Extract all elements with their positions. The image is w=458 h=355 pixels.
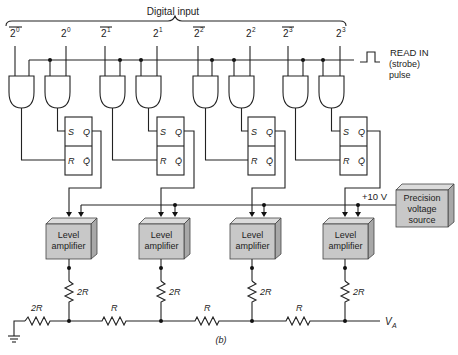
- strobe-bus: READ IN (strobe) pulse: [29, 47, 429, 80]
- and-gate-icon: [229, 76, 254, 108]
- reference-voltage-label: +10 V: [362, 191, 388, 202]
- svg-text:voltage: voltage: [407, 204, 436, 214]
- r-2r-ladder: 2R 2R 2R 2R 2R: [8, 259, 397, 342]
- and-gate-icon: [9, 76, 34, 108]
- svg-text:2R: 2R: [168, 287, 181, 297]
- svg-text:2: 2: [252, 26, 256, 33]
- svg-text:Q: Q: [175, 127, 182, 137]
- svg-text:0: 0: [67, 26, 71, 33]
- input-label-not-2-0: 20: [9, 26, 22, 39]
- svg-text:source: source: [408, 215, 435, 225]
- svg-text:Q: Q: [266, 127, 273, 137]
- input-label-2-0: 20: [61, 26, 71, 39]
- input-label-2-1: 21: [153, 26, 163, 39]
- input-label-not-2-1: 21: [100, 26, 112, 39]
- input-label-not-2-2: 22: [193, 26, 205, 39]
- svg-text:Q̄: Q̄: [175, 156, 182, 166]
- svg-text:3: 3: [342, 26, 346, 33]
- and-gates: [9, 76, 344, 108]
- input-labels: 20 20 21 21 22 22 23 23: [9, 26, 346, 39]
- svg-text:Q̄: Q̄: [358, 156, 365, 166]
- strobe-label-line3: pulse: [389, 70, 411, 80]
- input-wires: [15, 46, 340, 76]
- svg-text:R: R: [68, 156, 75, 166]
- dac-circuit-diagram: Digital input 20 20 21 21 22 22 23 23 RE…: [0, 0, 458, 355]
- level-amplifier-0: Level amplifier: [46, 218, 97, 259]
- strobe-label-line2: (strobe): [389, 59, 420, 69]
- svg-text:amplifier: amplifier: [144, 241, 178, 251]
- svg-text:Level: Level: [242, 230, 264, 240]
- svg-text:A: A: [391, 322, 397, 329]
- svg-text:amplifier: amplifier: [51, 241, 85, 251]
- vertical-resistor-1: 2R: [157, 259, 181, 321]
- vertical-resistor-0: 2R: [65, 259, 89, 321]
- svg-text:S: S: [343, 127, 349, 137]
- input-brace: [6, 16, 346, 26]
- svg-text:Q̄: Q̄: [83, 156, 90, 166]
- svg-text:Q: Q: [358, 127, 365, 137]
- q-to-amp-wires: [66, 131, 380, 217]
- svg-text:2R: 2R: [30, 303, 43, 313]
- ground-icon: [8, 321, 25, 342]
- series-resistor-0: R: [69, 303, 161, 325]
- svg-text:R: R: [296, 303, 303, 313]
- svg-text:2R: 2R: [259, 287, 272, 297]
- output-voltage-label: V A: [385, 316, 397, 329]
- vertical-resistor-2: 2R: [248, 259, 272, 321]
- digital-input-title: Digital input: [147, 6, 199, 17]
- strobe-pulse-icon: [360, 52, 380, 62]
- svg-text:S: S: [160, 127, 166, 137]
- svg-text:R: R: [160, 156, 167, 166]
- svg-text:Level: Level: [151, 230, 173, 240]
- vertical-resistor-3: 2R: [341, 259, 365, 321]
- svg-text:2R: 2R: [76, 287, 89, 297]
- svg-text:R: R: [111, 303, 118, 313]
- circuit-svg: Digital input 20 20 21 21 22 22 23 23 RE…: [0, 0, 458, 355]
- svg-text:amplifier: amplifier: [328, 241, 362, 251]
- flip-flops: SQ RQ̄ SQ RQ̄ SQ RQ̄ SQ RQ̄: [65, 117, 367, 175]
- input-label-2-3: 23: [336, 26, 346, 39]
- series-resistor-1: R: [161, 303, 252, 325]
- svg-text:R: R: [251, 156, 258, 166]
- input-label-2-2: 22: [246, 26, 256, 39]
- and-gate-icon: [136, 76, 161, 108]
- reference-bus: +10 V: [78, 191, 398, 217]
- svg-text:1: 1: [159, 26, 163, 33]
- and-gate-icon: [319, 76, 344, 108]
- svg-text:Q̄: Q̄: [266, 156, 273, 166]
- svg-text:Q: Q: [83, 127, 90, 137]
- level-amplifier-3: Level amplifier: [323, 218, 374, 259]
- sr-flip-flop-3: SQ RQ̄: [340, 117, 367, 175]
- sr-flip-flop-1: SQ RQ̄: [157, 117, 184, 175]
- svg-text:S: S: [251, 127, 257, 137]
- and-gate-icon: [45, 76, 70, 108]
- svg-text:S: S: [68, 127, 74, 137]
- and-gate-icon: [100, 76, 125, 108]
- series-resistor-2: R: [252, 303, 345, 325]
- svg-text:R: R: [204, 303, 211, 313]
- input-label-not-2-3: 23: [282, 26, 294, 39]
- svg-text:amplifier: amplifier: [235, 241, 269, 251]
- level-amplifier-2: Level amplifier: [230, 218, 281, 259]
- and-gate-icon: [193, 76, 218, 108]
- sr-flip-flop-0: SQ RQ̄: [65, 117, 92, 175]
- svg-text:Level: Level: [335, 230, 357, 240]
- level-amplifier-1: Level amplifier: [139, 218, 190, 259]
- precision-voltage-source: Precision voltage source: [396, 184, 454, 227]
- termination-resistor: 2R: [25, 303, 69, 325]
- svg-text:2R: 2R: [352, 287, 365, 297]
- svg-text:R: R: [343, 156, 350, 166]
- sr-flip-flop-2: SQ RQ̄: [248, 117, 275, 175]
- svg-text:Level: Level: [58, 230, 80, 240]
- and-gate-icon: [283, 76, 308, 108]
- svg-text:Precision: Precision: [403, 193, 440, 203]
- strobe-label-line1: READ IN: [390, 47, 429, 58]
- level-amplifiers: Level amplifier Level amplifier Level am…: [46, 218, 374, 259]
- figure-caption: (b): [216, 335, 227, 345]
